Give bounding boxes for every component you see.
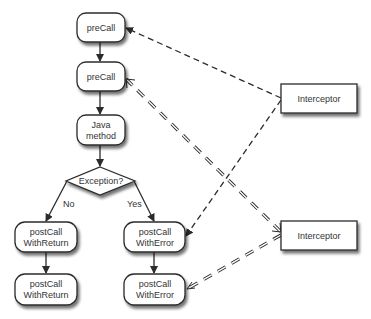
node-java-method: Java method: [77, 115, 125, 145]
node-postcall-return-1: postCall WithReturn: [15, 222, 77, 252]
node-label-line2: WithReturn: [23, 238, 68, 248]
node-label-line2: method: [86, 131, 116, 141]
node-precall-2: preCall: [77, 62, 125, 91]
flowchart-canvas: preCall preCall Java method Exception? N…: [0, 0, 371, 319]
decision-label: Exception?: [79, 176, 124, 186]
edge-label-no: No: [63, 199, 75, 209]
node-label-line1: postCall: [139, 279, 172, 289]
node-exception-decision: Exception?: [66, 167, 135, 195]
node-label-line1: postCall: [30, 227, 63, 237]
node-label-line1: postCall: [30, 279, 63, 289]
interceptor-1-links: [126, 28, 281, 236]
node-label-line2: WithError: [136, 238, 174, 248]
node-label-line2: WithReturn: [23, 290, 68, 300]
node-label: preCall: [87, 23, 116, 33]
node-postcall-error-1: postCall WithError: [124, 222, 185, 252]
node-label: Interceptor: [297, 231, 340, 241]
node-interceptor-2: Interceptor: [281, 221, 357, 250]
interceptor-2-links: [126, 79, 281, 289]
edge-label-yes: Yes: [127, 199, 142, 209]
node-label-line2: WithError: [136, 290, 174, 300]
node-postcall-return-2: postCall WithReturn: [15, 274, 77, 305]
node-label-line1: Java: [91, 120, 110, 130]
node-label: preCall: [87, 72, 116, 82]
node-interceptor-1: Interceptor: [281, 84, 357, 113]
node-label-line1: postCall: [139, 227, 172, 237]
node-label: Interceptor: [297, 94, 340, 104]
node-precall-1: preCall: [77, 13, 125, 42]
node-postcall-error-2: postCall WithError: [124, 274, 185, 305]
